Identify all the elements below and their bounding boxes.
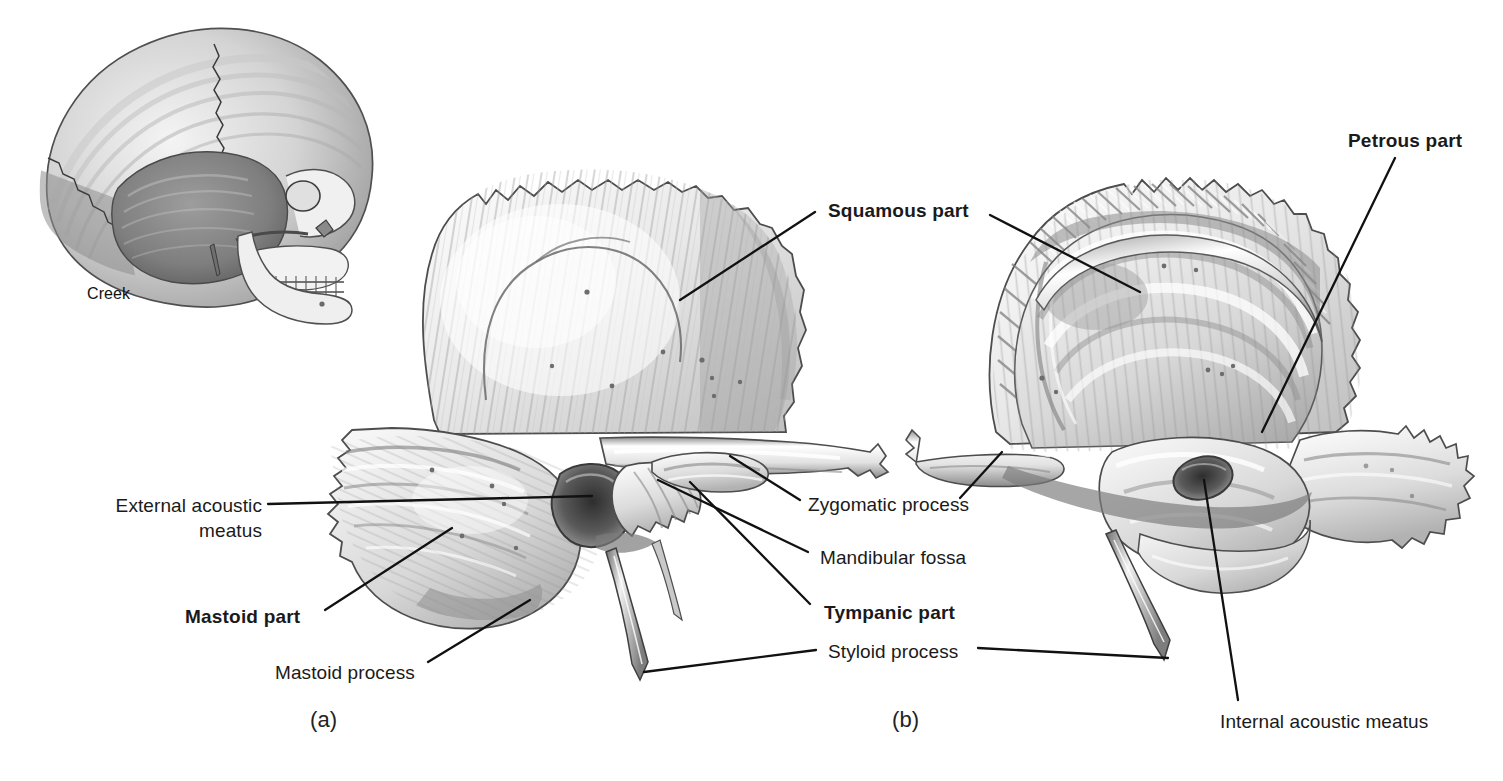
leader-styloid-a — [644, 650, 816, 672]
inset-skull-illustration — [39, 28, 372, 324]
leader-tympanic-part — [690, 482, 810, 604]
panel-caption-a: (a) — [310, 707, 337, 732]
posterior-spine-a — [652, 540, 682, 620]
label-external-acoustic-meatus-line1: External acoustic — [116, 495, 262, 516]
inset-mental-foramen — [319, 301, 324, 306]
illustration-layer — [0, 0, 1503, 781]
label-styloid-process: Styloid process — [828, 639, 958, 664]
label-mastoid-part: Mastoid part — [185, 604, 300, 629]
tympanomastoid-fissure-a — [596, 533, 656, 553]
label-zygomatic-process: Zygomatic process — [808, 492, 969, 517]
panel-a-illustration — [320, 160, 888, 680]
posterior-flange-b — [1285, 426, 1474, 548]
label-squamous-part: Squamous part — [828, 198, 969, 223]
leader-styloid-b — [978, 648, 1168, 658]
label-petrous-part: Petrous part — [1348, 128, 1462, 153]
label-internal-acoustic-meatus: Internal acoustic meatus — [1220, 709, 1428, 734]
inset-orbit — [286, 181, 320, 211]
label-tympanic-part: Tympanic part — [824, 600, 955, 625]
anatomy-figure: Creek Squamous part Petrous part Externa… — [0, 0, 1503, 781]
panel-b-illustration — [906, 178, 1474, 660]
label-external-acoustic-meatus-line2: meatus — [199, 520, 262, 541]
artist-credit-creek: Creek — [87, 281, 130, 306]
label-mandibular-fossa: Mandibular fossa — [820, 545, 966, 570]
label-external-acoustic-meatus: External acousticmeatus — [0, 493, 262, 543]
label-mastoid-process: Mastoid process — [275, 660, 415, 685]
panel-caption-b: (b) — [892, 707, 919, 732]
